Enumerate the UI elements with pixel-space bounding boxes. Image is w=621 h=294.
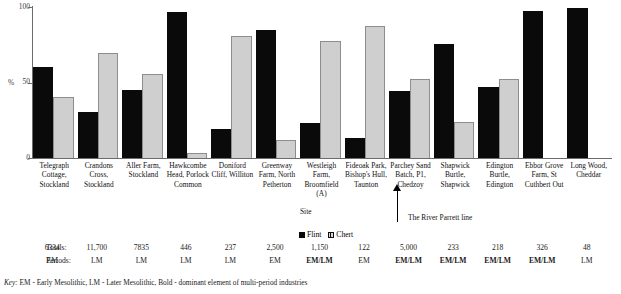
bar-group [167,6,212,158]
bar-group [33,6,78,158]
y-tick-label-100: 100 [8,3,30,11]
bar-flint [122,90,142,158]
bar-group [389,6,434,158]
bar-group [567,6,612,158]
bar-group [300,6,345,158]
bar-flint [567,8,587,158]
plot-area [32,6,612,159]
chart-figure: % 100 50 0 TelegraphCottage,StocklandCra… [0,0,621,294]
key-prefix: Key: [4,278,18,287]
bar-group [122,6,167,158]
chert-swatch-icon [328,232,334,238]
y-tick-0 [28,158,33,159]
bar-flint [33,67,53,158]
river-parrett-annotation-label: The River Parrett line [408,213,472,222]
river-parrett-arrow-icon [393,184,403,222]
x-axis-category-label: Long Wood,Cheddar [560,161,617,180]
bar-flint [167,12,187,158]
flint-swatch-icon [299,232,305,238]
bar-chert [320,41,340,158]
bar-chert [454,122,474,158]
bar-flint [300,123,320,158]
legend-label-flint: Flint [307,230,321,239]
x-axis-line [32,158,612,159]
bar-group [434,6,479,158]
key-note: Key: EM - Early Mesolithic, LM - Later M… [4,278,307,287]
bar-chert [187,153,207,158]
bar-flint [389,91,409,158]
bar-chert [410,79,430,158]
legend-item-chert: Chert [328,230,353,239]
bar-group [345,6,390,158]
bar-group [78,6,123,158]
bar-chert [231,36,251,158]
bar-group [523,6,568,158]
x-axis-category-labels: TelegraphCottage,StocklandCrandonsCross,… [32,161,612,221]
key-text: EM - Early Mesolithic, LM - Later Mesoli… [20,278,308,287]
bar-group [478,6,523,158]
bar-group [211,6,256,158]
legend-item-flint: Flint [299,230,321,239]
bar-series-container [33,6,612,158]
legend: Flint Chert [299,230,353,239]
bar-chert [53,97,73,158]
bar-chert [499,79,519,158]
bar-flint [434,44,454,158]
totals-cell: 48 [561,243,613,252]
bar-flint [211,129,231,158]
totals-periods-table: Totals: Periods: 6334EM11,700LM7835LM446… [0,243,621,271]
x-axis-title: Site [300,207,312,216]
bar-flint [523,11,543,158]
bar-chert [98,53,118,158]
bar-chert [365,26,385,158]
y-tick-label-50: 50 [8,78,30,86]
bar-flint [345,138,365,158]
bar-flint [478,87,498,158]
bar-chert [142,74,162,158]
bar-group [256,6,301,158]
bar-flint [78,112,98,158]
legend-label-chert: Chert [336,230,353,239]
bar-flint [256,30,276,158]
periods-cell: LM [561,256,613,265]
bar-chert [276,140,296,158]
